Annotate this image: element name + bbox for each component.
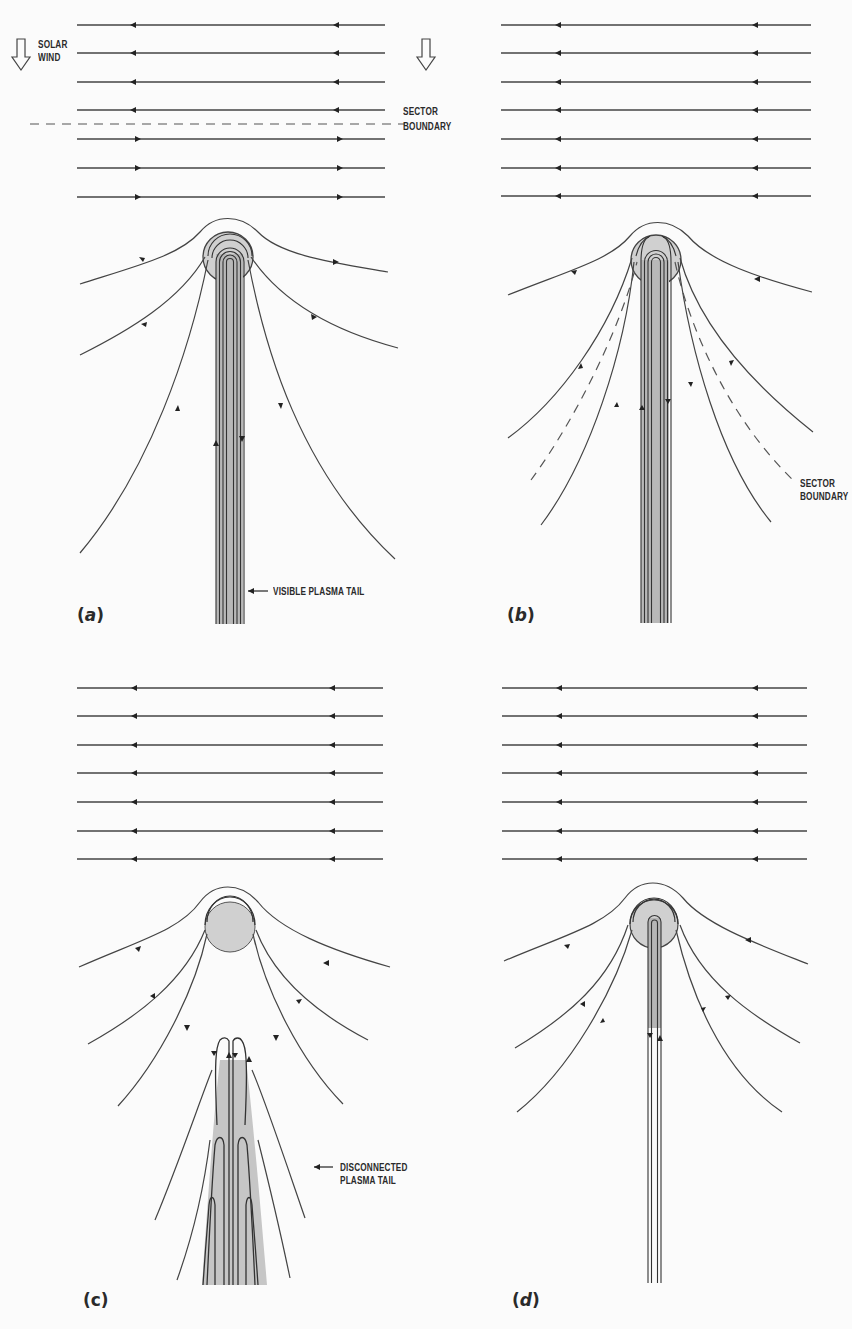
sector-boundary-label-b: SECTORBOUNDARY [800, 477, 848, 503]
magnetic-field-lines [502, 688, 807, 859]
magnetic-field-lines [501, 25, 811, 196]
panel-b-drawing [0, 0, 852, 660]
panel-label-d: (d) [512, 1290, 540, 1310]
panel-d: (d) [0, 660, 852, 1329]
panel-d-drawing [0, 660, 852, 1329]
panel-label-b: (b) [507, 605, 535, 625]
panel-b: SECTORBOUNDARY (b) [0, 0, 852, 660]
plasma-tail [641, 260, 669, 623]
